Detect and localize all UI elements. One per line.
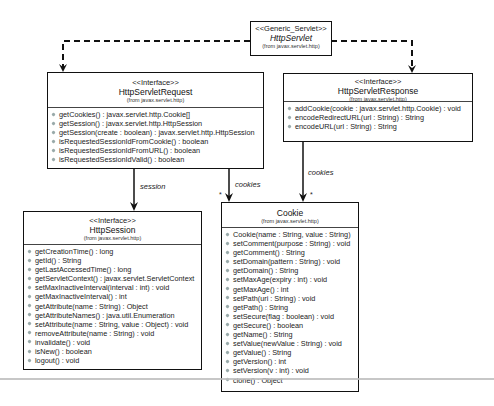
public-method-icon	[226, 233, 230, 237]
operation: invalidate() : void	[28, 338, 201, 347]
operations-list: addCookie(cookie : javax.servlet.http.Co…	[284, 102, 472, 131]
public-method-icon	[52, 113, 56, 117]
operation: getDomain() : String	[226, 266, 358, 275]
class-name: HttpServlet	[251, 33, 331, 43]
operation: getSession(create : boolean) : javax.ser…	[52, 128, 263, 137]
operation: getVersion() : int	[226, 357, 358, 366]
public-method-icon	[226, 314, 230, 318]
public-method-icon	[226, 342, 230, 346]
operation: setMaxInactiveInterval(interval : int) :…	[28, 283, 201, 292]
operation: getSession() : javax.servlet.http.HttpSe…	[52, 119, 263, 128]
public-method-icon	[28, 322, 32, 326]
operation: getCreationTime() : long	[28, 247, 201, 256]
operation: isNew() : boolean	[28, 347, 201, 356]
operation: addCookie(cookie : javax.servlet.http.Co…	[288, 104, 472, 113]
public-method-icon	[226, 369, 230, 373]
public-method-icon	[28, 350, 32, 354]
operation: logout() : void	[28, 356, 201, 365]
operation: isRequestedSessionIdFromURL() : boolean	[52, 146, 263, 155]
public-method-icon	[288, 116, 292, 120]
class-http-session: <<Interface>> HttpSession (from javax.se…	[23, 211, 202, 370]
operation: getPath() : String	[226, 303, 358, 312]
stereotype-label: <<Interface>>	[284, 77, 472, 86]
stereotype-label: <<Generic_Servlet>>	[251, 24, 331, 33]
operation: getCookies() : javax.servlet.http.Cookie…	[52, 110, 263, 119]
public-method-icon	[52, 122, 56, 126]
public-method-icon	[226, 242, 230, 246]
class-name: HttpSession	[24, 225, 201, 235]
operation: removeAttribute(name : String) : void	[28, 329, 201, 338]
class-cookie: Cookie (from javax.servlet.http) Cookie(…	[221, 202, 359, 392]
public-method-icon	[28, 331, 32, 335]
operation: setAttribute(name : String, value : Obje…	[28, 320, 201, 329]
public-method-icon	[28, 259, 32, 263]
operation: setPath(uri : String) : void	[226, 294, 358, 303]
class-name: Cookie	[222, 208, 358, 218]
operation: getMaxAge() : int	[226, 285, 358, 294]
operation: encodeURL(url : String) : String	[288, 122, 472, 131]
public-method-icon	[226, 269, 230, 273]
class-http-servlet-response: <<Interface>> HttpServletResponse (from …	[283, 73, 473, 142]
stereotype-label: <<Interface>>	[48, 78, 263, 87]
public-method-icon	[28, 340, 32, 344]
public-method-icon	[28, 359, 32, 363]
public-method-icon	[226, 360, 230, 364]
public-method-icon	[288, 107, 292, 111]
public-method-icon	[226, 351, 230, 355]
public-method-icon	[28, 277, 32, 281]
public-method-icon	[28, 313, 32, 317]
public-method-icon	[226, 260, 230, 264]
public-method-icon	[226, 305, 230, 309]
public-method-icon	[52, 149, 56, 153]
operations-list: getCookies() : javax.servlet.http.Cookie…	[48, 108, 263, 165]
operation: getServletContext() : javax.servlet.Serv…	[28, 274, 201, 283]
class-http-servlet: <<Generic_Servlet>> HttpServlet (from ja…	[250, 21, 332, 56]
class-name: HttpServletRequest	[48, 87, 263, 97]
public-method-icon	[52, 140, 56, 144]
operation: setComment(purpose : String) : void	[226, 239, 358, 248]
public-method-icon	[28, 304, 32, 308]
association-label-request-cookies: cookies	[235, 180, 260, 189]
public-method-icon	[28, 268, 32, 272]
operation: getComment() : String	[226, 248, 358, 257]
operation: getId() : String	[28, 256, 201, 265]
public-method-icon	[226, 323, 230, 327]
public-method-icon	[28, 295, 32, 299]
public-method-icon	[226, 287, 230, 291]
public-method-icon	[28, 250, 32, 254]
operation: isRequestedSessionIdValid() : boolean	[52, 155, 263, 164]
operation: isRequestedSessionIdFromCookie() : boole…	[52, 137, 263, 146]
package-label: (from javax.servlet.http)	[48, 97, 263, 104]
package-label: (from javax.servlet.http)	[251, 43, 331, 50]
operation: getName() : String	[226, 330, 358, 339]
operation: setMaxAge(expiry : int) : void	[226, 275, 358, 284]
operation: setSecure(flag : boolean) : void	[226, 312, 358, 321]
operation: setValue(newValue : String) : void	[226, 339, 358, 348]
dependency-servlet-to-response	[331, 41, 412, 69]
public-method-icon	[226, 296, 230, 300]
operation: setVersion(v : int) : void	[226, 366, 358, 375]
public-method-icon	[28, 286, 32, 290]
public-method-icon	[288, 125, 292, 129]
package-label: (from javax.servlet.http)	[24, 235, 201, 242]
class-name: HttpServletResponse	[284, 86, 472, 96]
operation: getAttributeNames() : java.util.Enumerat…	[28, 311, 201, 320]
operations-list: Cookie(name : String, value : String) se…	[222, 228, 358, 385]
public-method-icon	[226, 278, 230, 282]
operation: getSecure() : boolean	[226, 321, 358, 330]
package-label: (from javax.servlet.http)	[222, 218, 358, 225]
operation: encodeRedirectURL(url : String) : String	[288, 113, 472, 122]
public-method-icon	[52, 158, 56, 162]
association-label-response-cookies: cookies	[308, 168, 333, 177]
association-label-session: session	[140, 182, 165, 191]
operation: Cookie(name : String, value : String)	[226, 230, 358, 239]
dependency-servlet-to-request	[63, 41, 250, 68]
class-http-servlet-request: <<Interface>> HttpServletRequest (from j…	[47, 72, 264, 169]
operation: getAttribute(name : String) : Object	[28, 302, 201, 311]
operation: getMaxInactiveInterval() : int	[28, 292, 201, 301]
operations-list: getCreationTime() : long getId() : Strin…	[24, 245, 201, 365]
stereotype-label: <<Interface>>	[24, 216, 201, 225]
public-method-icon	[226, 251, 230, 255]
public-method-icon	[52, 131, 56, 135]
operation: getValue() : String	[226, 348, 358, 357]
